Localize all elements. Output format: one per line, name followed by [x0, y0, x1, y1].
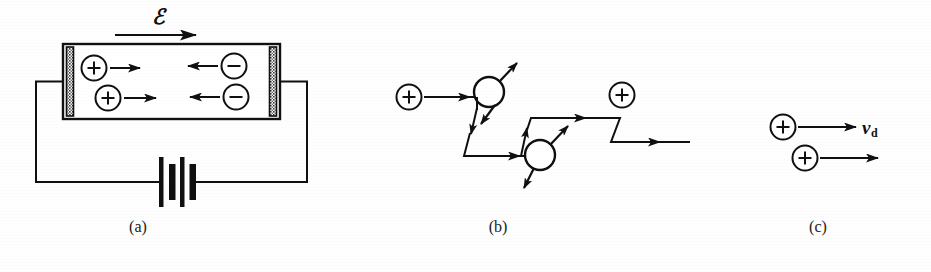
drift-velocity-label: vd — [862, 117, 878, 141]
charge-negative-bottom-right — [224, 85, 249, 110]
charge-positive-drift-top — [771, 115, 796, 140]
charge-positive-top-left — [82, 56, 107, 81]
panel-caption-a: (a) — [108, 218, 168, 236]
scatter-arrow-2-out — [550, 126, 568, 145]
charge-positive-drift-bottom — [793, 146, 818, 171]
panel-a-group — [36, 35, 307, 207]
path-segment-7 — [608, 118, 690, 142]
charge-positive-bottom-left — [96, 86, 121, 111]
scatter-arrow-2-down — [524, 168, 534, 188]
drift-velocity-variable: v — [862, 117, 870, 138]
path-segment-6 — [527, 118, 608, 130]
physics-figure-current-conduction: ℰ vd (a) (b) (c) — [0, 0, 931, 272]
panel-caption-c: (c) — [788, 218, 848, 236]
charge-negative-top-right — [222, 54, 247, 79]
battery-symbol — [159, 157, 196, 207]
path-segment-4 — [464, 133, 530, 156]
charge-positive-path-upper-right — [610, 83, 635, 108]
panel-caption-b: (b) — [468, 218, 528, 236]
left-electrode — [67, 47, 74, 116]
electric-field-symbol-label: ℰ — [152, 4, 165, 29]
path-segment-3 — [471, 108, 477, 134]
charge-positive-path-start — [397, 85, 422, 110]
panel-b-group — [397, 63, 691, 188]
scatter-arrow-1-out — [499, 63, 517, 82]
right-electrode — [270, 47, 277, 116]
drift-velocity-subscript: d — [871, 126, 878, 140]
